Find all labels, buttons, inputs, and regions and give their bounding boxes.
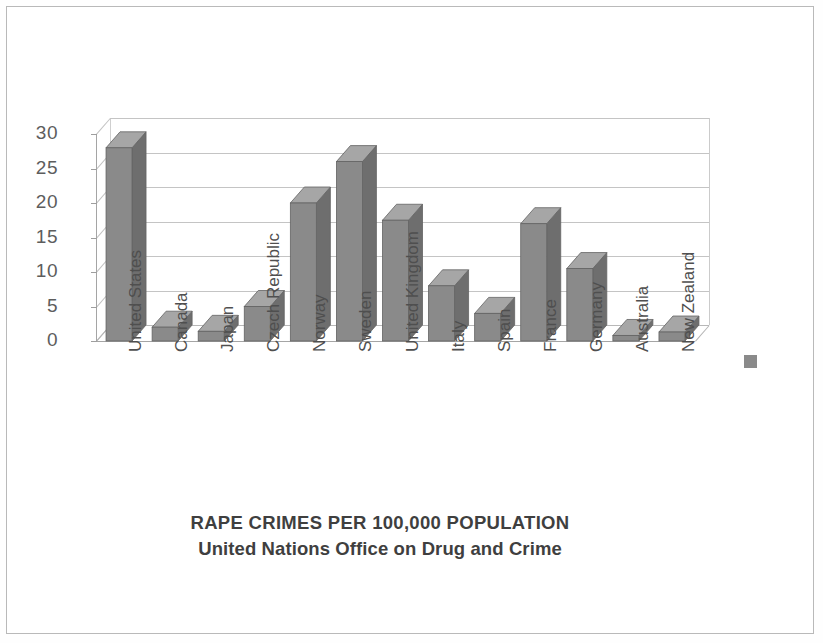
x-tick-label-sweden: Sweden — [356, 291, 376, 352]
scanned-page: 051015202530 United StatesCanadaJapanCze… — [0, 0, 823, 643]
x-tick-label-australia: Australia — [633, 286, 653, 352]
x-tick-label-new-zealand: New Zealand — [679, 252, 699, 352]
x-tick-label-czech-republic: Czech Republic — [264, 233, 284, 352]
chart-subtitle: United Nations Office on Drug and Crime — [0, 538, 760, 560]
chart-title-block: RAPE CRIMES PER 100,000 POPULATION Unite… — [0, 512, 760, 560]
x-tick-label-france: France — [541, 299, 561, 352]
x-tick-label-united-kingdom: United Kingdom — [403, 231, 423, 352]
x-tick-label-japan: Japan — [218, 306, 238, 352]
chart-title: RAPE CRIMES PER 100,000 POPULATION — [0, 512, 760, 534]
x-tick-label-canada: Canada — [172, 292, 192, 352]
x-tick-label-spain: Spain — [495, 309, 515, 352]
legend-color-swatch — [744, 355, 757, 368]
bar-chart-figure: 051015202530 United StatesCanadaJapanCze… — [0, 0, 823, 643]
x-tick-label-united-states: United States — [126, 250, 146, 352]
x-tick-label-germany: Germany — [587, 282, 607, 352]
x-tick-label-norway: Norway — [310, 294, 330, 352]
x-tick-label-italy: Italy — [449, 321, 469, 352]
